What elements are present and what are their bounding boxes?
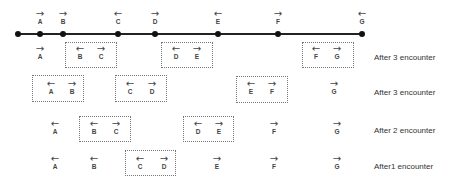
arrow-right-icon: →: [270, 10, 286, 18]
node-label: A: [43, 88, 59, 95]
node-label: D: [144, 88, 160, 95]
arrow-right-icon: →: [329, 45, 345, 53]
line-endpoint-dot: [15, 31, 21, 37]
arrow-right-icon: →: [144, 80, 160, 88]
row2-node-d: →D: [144, 80, 160, 95]
node-label: E: [211, 128, 227, 135]
node-label: C: [93, 53, 109, 60]
row2-node-a: ←A: [43, 80, 59, 95]
row-label: After1 encounter: [374, 162, 433, 171]
line-dot-g: [359, 31, 365, 37]
arrow-right-icon: →: [93, 45, 109, 53]
arrow-right-icon: →: [211, 120, 227, 128]
row2-node-b: →B: [64, 80, 80, 95]
top-node-c: ←C: [110, 10, 126, 25]
top-node-d: →D: [147, 10, 163, 25]
node-label: C: [132, 163, 148, 170]
arrow-left-icon: ←: [132, 155, 148, 163]
arrow-right-icon: →: [329, 120, 345, 128]
node-label: F: [266, 128, 282, 135]
line-dot-c: [115, 31, 121, 37]
node-label: G: [329, 163, 345, 170]
row1-node-c: →C: [93, 45, 109, 60]
row4-node-b: ←B: [86, 155, 102, 170]
line-dot-b: [60, 31, 66, 37]
line-dot-e: [215, 31, 221, 37]
node-label: A: [32, 53, 48, 60]
row-label: After 2 encounter: [374, 126, 435, 135]
row3-node-c: →C: [108, 120, 124, 135]
node-label: E: [210, 18, 226, 25]
row3-node-g: →G: [329, 120, 345, 135]
arrow-left-icon: ←: [47, 120, 63, 128]
row3-node-a: ←A: [47, 120, 63, 135]
row4-node-c: ←C: [132, 155, 148, 170]
arrow-right-icon: →: [326, 80, 342, 88]
node-label: D: [156, 163, 172, 170]
node-label: B: [64, 88, 80, 95]
arrow-right-icon: →: [64, 80, 80, 88]
encounter-diagram: →A→B←C→D←E→F←G→A←B→C←D→E←F→GAfter 3 enco…: [0, 0, 452, 184]
row3-node-b: ←B: [86, 120, 102, 135]
arrow-right-icon: →: [147, 10, 163, 18]
node-label: C: [108, 128, 124, 135]
row1-node-a: →A: [32, 45, 48, 60]
row1-node-e: →E: [189, 45, 205, 60]
arrow-left-icon: ←: [122, 80, 138, 88]
arrow-left-icon: ←: [210, 10, 226, 18]
node-label: F: [308, 53, 324, 60]
line-dot-f: [275, 31, 281, 37]
arrow-left-icon: ←: [86, 155, 102, 163]
arrow-left-icon: ←: [47, 155, 63, 163]
row-label: After 3 encounter: [374, 88, 435, 97]
node-label: G: [326, 88, 342, 95]
node-label: A: [47, 163, 63, 170]
arrow-left-icon: ←: [308, 45, 324, 53]
node-label: D: [190, 128, 206, 135]
row3-node-d: ←D: [190, 120, 206, 135]
node-label: B: [72, 53, 88, 60]
arrow-right-icon: →: [264, 80, 280, 88]
top-node-e: ←E: [210, 10, 226, 25]
arrow-left-icon: ←: [110, 10, 126, 18]
top-node-a: →A: [32, 10, 48, 25]
top-node-f: →F: [270, 10, 286, 25]
line-dot-d: [152, 31, 158, 37]
arrow-right-icon: →: [266, 155, 282, 163]
number-line: [18, 33, 362, 35]
row1-node-d: ←D: [168, 45, 184, 60]
top-node-g: ←G: [354, 10, 370, 25]
row2-node-f: →F: [264, 80, 280, 95]
node-label: B: [86, 163, 102, 170]
arrow-right-icon: →: [55, 10, 71, 18]
arrow-left-icon: ←: [243, 80, 259, 88]
row3-node-e: →E: [211, 120, 227, 135]
node-label: B: [86, 128, 102, 135]
arrow-left-icon: ←: [43, 80, 59, 88]
row4-node-f: →F: [266, 155, 282, 170]
node-label: A: [47, 128, 63, 135]
node-label: D: [168, 53, 184, 60]
arrow-right-icon: →: [156, 155, 172, 163]
node-label: E: [189, 53, 205, 60]
row3-node-f: →F: [266, 120, 282, 135]
arrow-right-icon: →: [209, 155, 225, 163]
arrow-left-icon: ←: [168, 45, 184, 53]
row1-node-f: ←F: [308, 45, 324, 60]
top-node-b: →B: [55, 10, 71, 25]
arrow-right-icon: →: [32, 45, 48, 53]
arrow-left-icon: ←: [86, 120, 102, 128]
arrow-right-icon: →: [32, 10, 48, 18]
row4-node-g: →G: [329, 155, 345, 170]
row4-node-d: →D: [156, 155, 172, 170]
node-label: A: [32, 18, 48, 25]
arrow-right-icon: →: [329, 155, 345, 163]
node-label: C: [110, 18, 126, 25]
node-label: E: [243, 88, 259, 95]
node-label: F: [264, 88, 280, 95]
row2-node-g: →G: [326, 80, 342, 95]
node-label: F: [266, 163, 282, 170]
arrow-right-icon: →: [108, 120, 124, 128]
arrow-left-icon: ←: [354, 10, 370, 18]
node-label: G: [329, 53, 345, 60]
